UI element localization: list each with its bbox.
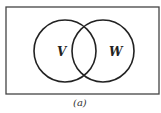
venn-diagram: V W (a): [0, 0, 161, 113]
set-v-label: V: [57, 45, 68, 59]
figure-caption: (a): [73, 97, 87, 108]
set-w-circle: [72, 20, 134, 82]
set-w-label: W: [109, 45, 124, 59]
universal-set-frame: [6, 7, 159, 94]
